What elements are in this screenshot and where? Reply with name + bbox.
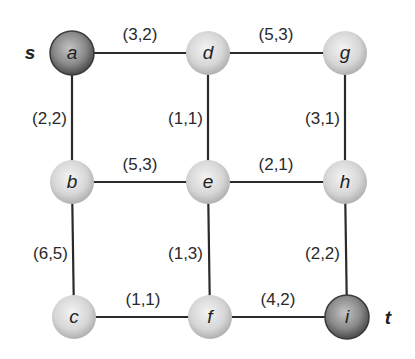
node-label: a (67, 42, 78, 63)
edge-label-e-h: (2,1) (259, 155, 294, 174)
edge-label-h-i: (2,2) (305, 244, 340, 263)
node-label: g (340, 42, 351, 63)
edge-label-b-c: (6,5) (33, 244, 68, 263)
node-f: f (188, 295, 232, 339)
edge-label-a-d: (3,2) (123, 25, 158, 44)
edge-label-b-e: (5,3) (123, 155, 158, 174)
node-b: b (50, 160, 94, 204)
node-i: i (325, 295, 369, 339)
node-a: a (50, 31, 94, 75)
edge-label-c-f: (1,1) (126, 290, 161, 309)
edge-label-f-i: (4,2) (261, 290, 296, 309)
edge-label-g-h: (3,1) (305, 109, 340, 128)
node-label: e (203, 171, 214, 192)
source-label: s (25, 42, 36, 63)
node-h: h (323, 160, 367, 204)
node-label: b (67, 171, 78, 192)
sink-label: t (385, 307, 392, 328)
node-e: e (186, 160, 230, 204)
node-label: c (69, 306, 79, 327)
edge-label-d-e: (1,1) (168, 109, 203, 128)
node-label: h (340, 171, 351, 192)
node-c: c (52, 295, 96, 339)
node-label: d (203, 42, 215, 63)
network-flow-graph: (3,2)(5,3)(2,2)(1,1)(3,1)(5,3)(2,1)(6,5)… (0, 0, 415, 359)
edge-label-a-b: (2,2) (32, 109, 67, 128)
node-d: d (186, 31, 230, 75)
edge-label-e-f: (1,3) (168, 244, 203, 263)
edge-label-d-g: (5,3) (259, 25, 294, 44)
node-g: g (323, 31, 367, 75)
